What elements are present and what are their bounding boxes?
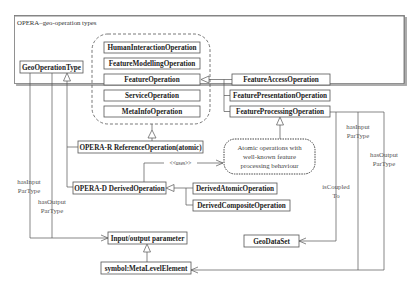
frame-title: OPERA–geo-operation types — [17, 19, 97, 26]
class-label: FeatureAccessOperation — [243, 76, 319, 84]
class-label: OPERA-R ReferenceOperation(atomic) — [79, 144, 202, 152]
class-geo-operation-type: GeoOperationType — [20, 61, 83, 73]
class-label: OPERA-D DerivedOperation — [74, 185, 164, 193]
generalization-arrow-feature-operation — [201, 76, 209, 83]
class-derived-composite-operation: DerivedCompositeOperation — [193, 200, 290, 211]
has-input-label: ParType — [347, 132, 370, 139]
generalization-arrow-geo-operation-type — [64, 73, 71, 81]
class-label: FeatureOperation — [124, 76, 179, 84]
class-feature-presentation-operation: FeaturePresentationOperation — [230, 90, 330, 101]
has-output-label: hasOutput — [370, 151, 398, 158]
class-label: symbol:MetaLevelElement — [105, 265, 188, 273]
class-service-operation: ServiceOperation — [104, 90, 200, 101]
class-label: GeoOperationType — [22, 64, 81, 72]
class-metalevel-element: symbol:MetaLevelElement — [101, 262, 191, 274]
has-input-label: ParType — [18, 187, 41, 194]
class-feature-access-operation: FeatureAccessOperation — [232, 74, 330, 85]
class-geodataset: GeoDataSet — [244, 235, 299, 247]
class-input-output-parameter: Input/output parameter — [108, 232, 187, 244]
class-label: ServiceOperation — [125, 92, 179, 100]
class-label: DerivedAtomicOperation — [196, 185, 274, 193]
generalization-arrow-feature-processing — [277, 117, 284, 125]
class-label: FeatureProcessingOperation — [236, 108, 324, 116]
class-reference-operation: OPERA-R ReferenceOperation(atomic) — [78, 141, 203, 153]
class-label: DerivedCompositeOperation — [197, 202, 286, 210]
class-human-interaction-operation: HumanInteractionOperation — [104, 42, 200, 53]
class-label: Input/output parameter — [111, 235, 185, 243]
has-output-label: ParType — [373, 160, 396, 167]
class-label: MetaInfoOperation — [122, 108, 182, 116]
class-feature-processing-operation: FeatureProcessingOperation — [230, 106, 330, 117]
has-output-label: hasOutput — [38, 198, 66, 205]
note-text: well-known feature — [243, 153, 296, 160]
has-input-label: hasInput — [17, 178, 41, 185]
class-feature-operation: FeatureOperation — [104, 74, 200, 85]
diagram: OPERA–geo-operation types GeoOperationTy… — [0, 0, 420, 290]
note-atomic-operations: Atomic operations with well-known featur… — [224, 139, 315, 174]
class-derived-atomic-operation: DerivedAtomicOperation — [193, 183, 277, 194]
generalization-arrow-derived-operation — [166, 185, 174, 192]
note-text: Atomic operations with — [237, 144, 302, 151]
is-coupled-to-label: isCoupled — [322, 183, 350, 190]
class-label: FeatureModellingOperation — [109, 60, 196, 68]
class-label: FeaturePresentationOperation — [233, 92, 327, 100]
has-output-label: ParType — [41, 207, 64, 214]
uses-stereotype-label: <<uses>> — [170, 160, 192, 166]
has-input-label: hasInput — [346, 123, 370, 130]
class-label: GeoDataSet — [253, 238, 290, 246]
note-text: processing behaviour — [241, 162, 300, 169]
generalization-arrow-io-parameter — [144, 244, 151, 252]
class-label: HumanInteractionOperation — [107, 44, 196, 52]
generalization-arrow-group — [148, 130, 156, 138]
class-feature-modelling-operation: FeatureModellingOperation — [104, 58, 200, 69]
class-derived-operation: OPERA-D DerivedOperation — [73, 182, 166, 194]
is-coupled-to-label: To — [332, 192, 340, 199]
class-metainfo-operation: MetaInfoOperation — [104, 106, 200, 117]
